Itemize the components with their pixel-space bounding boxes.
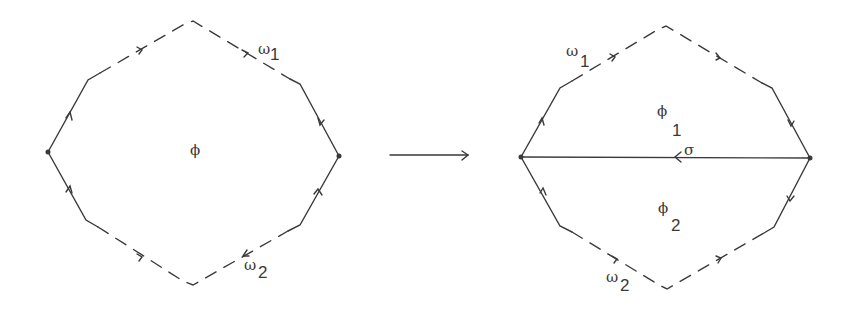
left-region-label-phi: ϕ xyxy=(190,143,200,158)
right-fig-vertex-left xyxy=(519,155,523,159)
right-chord-label-sigma: σ xyxy=(684,143,694,158)
right-upper-region-label-sub: 1 xyxy=(672,122,681,139)
right-fig-bottom-arc-omega2 xyxy=(572,232,764,289)
left-fig-right-upper-edge xyxy=(290,79,339,156)
left-top-arc-label-sub: 1 xyxy=(270,46,279,63)
right-upper-region-label-phi: ϕ xyxy=(657,104,667,119)
right-fig-chord-sigma xyxy=(521,157,810,158)
left-fig-vertex-right xyxy=(337,154,341,158)
left-bottom-arc-label-sub: 2 xyxy=(258,264,267,281)
left-fig-vertex-left xyxy=(46,150,50,154)
right-bottom-arc-label-sub: 2 xyxy=(620,277,629,294)
arrowhead-icon xyxy=(612,256,617,263)
left-fig-right-lower-edge xyxy=(288,156,339,231)
diagram-canvas: ϕ ω 1 ω 2 ω 1 ϕ 1 σ ϕ 2 ω 2 xyxy=(0,0,848,310)
right-fig-left-upper-edge xyxy=(521,81,572,157)
right-top-arc-label-sub: 1 xyxy=(580,53,589,70)
diagram-graphics xyxy=(0,0,848,310)
right-lower-region-label-sub: 2 xyxy=(671,217,680,234)
arrowhead-icon xyxy=(242,50,248,57)
right-top-arc-label-omega: ω xyxy=(566,44,578,59)
right-fig-top-arc-omega1 xyxy=(572,26,762,83)
left-fig-left-lower-edge xyxy=(48,152,98,227)
right-fig-vertex-right xyxy=(808,156,812,160)
right-bottom-arc-label-omega: ω xyxy=(606,270,618,285)
left-top-arc-label-omega: ω xyxy=(258,42,270,57)
left-fig-left-upper-edge xyxy=(48,73,100,152)
left-bottom-arc-label-omega: ω xyxy=(244,258,256,273)
right-fig-right-upper-edge xyxy=(762,83,810,158)
right-lower-region-label-phi: ϕ xyxy=(658,201,668,216)
transition-arrow xyxy=(390,151,468,160)
right-figure xyxy=(519,26,812,289)
arrowhead-icon xyxy=(540,188,546,195)
